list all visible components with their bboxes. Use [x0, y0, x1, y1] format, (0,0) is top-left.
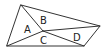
region-label-d: D — [73, 32, 81, 43]
region-label-c: C — [40, 35, 47, 46]
region-label-b: B — [40, 15, 47, 26]
region-label-a: A — [24, 24, 31, 35]
line-interior-to-right — [43, 26, 100, 31]
quadrilateral-diagram: A B C D — [0, 0, 108, 56]
